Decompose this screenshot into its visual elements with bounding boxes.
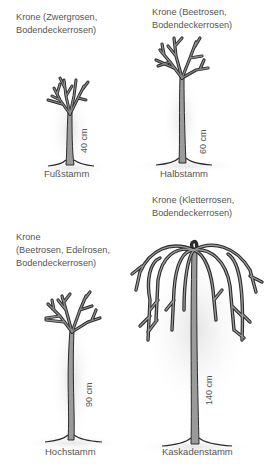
kaskadenstamm-crown-label: Krone (Kletterrosen, Bodendeckerrosen) — [152, 194, 234, 220]
crown-label-line: Bodendeckerrosen) — [152, 19, 232, 32]
halbstamm-drawing — [130, 38, 240, 174]
crown-label-line: Bodendeckerrosen) — [16, 24, 97, 37]
crown-label-line: (Beetrosen, Edelrosen, — [16, 244, 110, 257]
crown-label-line: Krone — [16, 231, 110, 244]
halbstamm-crown-label: Krone (Beetrosen, Bodendeckerrosen) — [152, 6, 232, 32]
crown-label-line: Krone (Kletterrosen, — [152, 194, 234, 207]
crown-label-line: Krone (Beetrosen, — [152, 6, 232, 19]
kaskadenstamm-drawing — [132, 240, 262, 456]
halbstamm-name: Halbstamm — [160, 168, 208, 179]
hochstamm-height-label: 90 cm — [84, 382, 94, 407]
hochstamm-crown-label: Krone (Beetrosen, Edelrosen, Bodendecker… — [16, 231, 110, 270]
kaskadenstamm-name: Kaskadenstamm — [162, 446, 233, 457]
crown-label-line: Bodendeckerrosen) — [16, 257, 110, 270]
kaskadenstamm-height-label: 140 cm — [204, 375, 214, 405]
hochstamm-drawing — [22, 292, 122, 452]
fussstamm-name: Fußstamm — [44, 168, 89, 179]
halbstamm-height-label: 60 cm — [198, 129, 208, 154]
fussstamm-drawing — [28, 78, 112, 176]
hochstamm-name: Hochstamm — [45, 446, 96, 457]
crown-label-line: Krone (Zwergrosen, — [16, 11, 97, 24]
fussstamm-crown-label: Krone (Zwergrosen, Bodendeckerrosen) — [16, 11, 97, 37]
crown-label-line: Bodendeckerrosen) — [152, 207, 234, 220]
fussstamm-height-label: 40 cm — [79, 128, 89, 153]
